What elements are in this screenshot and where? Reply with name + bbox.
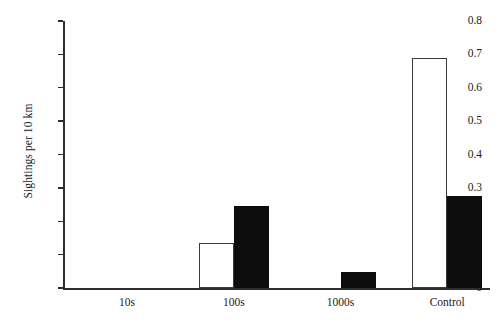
x-axis-label-10s: 10s	[82, 297, 172, 309]
bar-100s-open	[199, 243, 234, 288]
bar-100s-filled	[234, 206, 269, 288]
y-axis-tick	[58, 20, 64, 21]
y-axis-line	[63, 21, 65, 288]
y-axis-tick-label: 0.3	[448, 182, 482, 194]
x-axis-label-1000s: 1000s	[296, 297, 386, 309]
y-axis-tick	[58, 154, 64, 155]
y-axis-title: Sightings per 10 km	[22, 61, 34, 241]
y-axis-tick	[58, 54, 64, 55]
bar-1000s-filled	[341, 272, 376, 288]
y-axis-tick-label: 0.8	[448, 15, 482, 27]
y-axis-tick	[58, 254, 64, 255]
bar-control-open	[412, 58, 447, 288]
plot-area: 00.10.20.30.40.50.60.70.8 10s100s1000sCo…	[63, 21, 490, 288]
bar-control-filled	[447, 196, 482, 288]
y-axis-tick-label: 0.7	[448, 48, 482, 60]
y-axis-tick	[58, 221, 64, 222]
x-axis-label-control: Control	[402, 297, 492, 309]
y-axis-tick-label: 0.5	[448, 115, 482, 127]
y-axis-tick	[58, 287, 64, 288]
bar-chart-figure: Sightings per 10 km 00.10.20.30.40.50.60…	[0, 0, 503, 327]
y-axis-tick	[58, 87, 64, 88]
y-axis-tick	[58, 120, 64, 121]
x-axis-line	[63, 288, 490, 290]
y-axis-tick	[58, 187, 64, 188]
x-axis-label-100s: 100s	[189, 297, 279, 309]
y-axis-tick-label: 0.6	[448, 82, 482, 94]
y-axis-tick-label: 0.4	[448, 149, 482, 161]
